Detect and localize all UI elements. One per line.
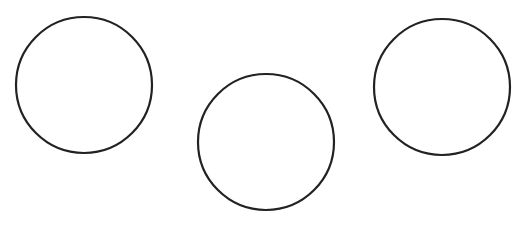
circle-right	[374, 19, 510, 155]
diagram-canvas	[0, 0, 520, 225]
circle-middle	[198, 74, 334, 210]
circles-diagram	[0, 0, 520, 225]
circle-left	[16, 17, 152, 153]
